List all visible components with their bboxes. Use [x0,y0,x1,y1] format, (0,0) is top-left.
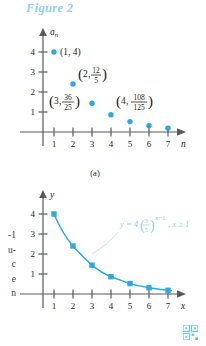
point-label-a-4-den: 125 [133,103,145,112]
x-tick-label-a-1: 1 [52,139,57,149]
svg-text:,: , [126,96,128,106]
data-point-b-7 [165,288,170,293]
equation-num: 3 [144,217,147,224]
y-tick-label-a-1: 1 [31,107,36,117]
point-label-a-1: (1, 4) [60,47,81,58]
x-tick-label-a-3: 3 [90,139,95,149]
data-point-a-4 [108,112,113,117]
x-axis-arrow-b [177,290,186,298]
equation-domain: , x ≥ 1 [168,219,189,229]
x-tick-label-b-2: 2 [71,301,76,311]
y-tick-label-b-1: 1 [31,269,36,279]
y-axis-arrow-b [39,190,47,198]
svg-text:): ) [148,93,153,110]
svg-text:): ) [102,66,107,83]
line-plot-exponential: 1 2 3 4 5 6 7 1 2 3 4 y x y = 4 ( 3 5 ) … [0,172,206,332]
x-tick-label-b-7: 7 [166,301,171,311]
x-tick-label-b-1: 1 [52,301,57,311]
data-point-b-2 [70,243,75,248]
y-tick-labels-b: 1 2 3 4 [31,209,36,279]
y-tick-labels-a: 1 2 3 4 [31,47,36,117]
y-tick-label-b-4: 4 [31,209,36,219]
x-axis-arrow-a [177,128,186,136]
equation-den: 5 [144,226,147,233]
x-axis-title-b: x [180,301,186,311]
data-point-b-4 [108,274,113,279]
y-tick-label-b-3: 3 [31,229,36,239]
scatter-plot-sequence: 1 2 3 4 5 6 7 1 2 3 4 an n (1, 4) ( 2 , … [0,14,206,166]
chart-panel-a: 1 2 3 4 5 6 7 1 2 3 4 an n (1, 4) ( 2 , … [0,14,206,166]
y-axis-title-a: an [50,27,59,39]
data-point-a-1 [51,49,56,54]
equation-annotation: y = 4 ( 3 5 ) x−1 , x ≥ 1 [119,214,189,234]
svg-text:,: , [59,96,61,106]
equation-lhs: y = 4 [119,219,139,229]
data-point-b-6 [146,285,151,290]
data-point-a-6 [146,123,151,128]
data-point-b-5 [127,281,132,286]
data-point-b-1 [51,211,56,216]
data-points-a [51,49,170,131]
data-point-a-7 [165,126,170,131]
x-axis-title-a: n [181,139,186,149]
x-tick-label-b-5: 5 [128,301,133,311]
x-tick-label-b-3: 3 [90,301,95,311]
y-axis-arrow-a [39,28,47,36]
point-label-a-3: ( 3 , 36 25 ) [49,93,80,112]
x-tick-label-a-6: 6 [147,139,152,149]
x-tick-label-a-2: 2 [71,139,76,149]
x-tick-labels-b: 1 2 3 4 5 6 7 [52,301,171,311]
point-label-a-4: ( 4 , 108 125 ) [116,93,153,112]
annotation-leader-line [92,232,118,254]
y-axis-title-b: y [49,190,55,200]
y-tick-label-a-4: 4 [31,47,36,57]
y-tick-label-a-3: 3 [31,67,36,77]
equation-exponent: x−1 [154,214,166,221]
data-point-b-3 [89,263,94,268]
point-label-a-4-num: 108 [133,93,145,102]
x-tick-label-b-6: 6 [147,301,152,311]
data-point-a-5 [127,119,132,124]
x-tick-label-b-4: 4 [109,301,114,311]
point-label-a-2-den: 5 [94,76,98,85]
qr-code-icon[interactable] [183,325,198,340]
svg-text:): ) [75,93,80,110]
point-label-a-3-num: 36 [64,93,72,102]
point-label-a-3-den: 25 [64,103,72,112]
point-label-a-2: ( 2 , 12 5 ) [78,66,107,85]
chart-panel-b: 1 2 3 4 5 6 7 1 2 3 4 y x y = 4 ( 3 5 ) … [0,172,206,332]
point-label-a-2-num: 12 [92,66,100,75]
data-point-a-3 [89,101,94,106]
y-tick-label-a-2: 2 [31,87,36,97]
x-tick-label-a-4: 4 [109,139,114,149]
x-tick-label-a-7: 7 [166,139,171,149]
y-tick-label-b-2: 2 [31,249,36,259]
x-tick-labels-a: 1 2 3 4 5 6 7 [52,139,171,149]
data-point-a-2 [70,81,75,86]
svg-text:,: , [88,69,90,79]
x-tick-label-a-5: 5 [128,139,133,149]
